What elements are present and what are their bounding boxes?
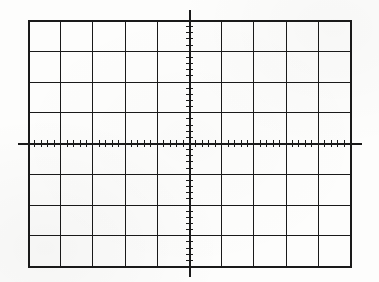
oscilloscope-graticule-figure: Blank CRT oscilloscope screen graticule … (0, 0, 379, 282)
graticule-canvas (0, 0, 379, 282)
